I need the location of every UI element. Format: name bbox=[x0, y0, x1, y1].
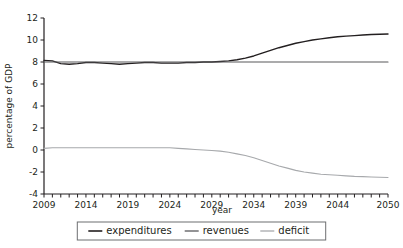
x-axis-tick-label: 2050 bbox=[377, 200, 400, 210]
x-axis-tick-label: 2024 bbox=[158, 200, 181, 210]
x-axis-tick-label: 2009 bbox=[33, 200, 56, 210]
y-axis-tick-label: 2 bbox=[32, 123, 38, 133]
y-axis-tick-label: 12 bbox=[27, 13, 38, 23]
y-axis-tick-label: 8 bbox=[32, 57, 38, 67]
chart-legend: expendituresrevenuesdeficit bbox=[77, 222, 325, 240]
line-chart: -4-2024681012 20092014201920242029203420… bbox=[0, 0, 403, 248]
legend-label-revenues: revenues bbox=[203, 225, 249, 236]
y-axis-tick-label: -2 bbox=[29, 167, 38, 177]
legend-label-expenditures: expenditures bbox=[106, 225, 171, 236]
y-axis-tick-label: 0 bbox=[32, 145, 38, 155]
y-axis-tick-label: 6 bbox=[32, 79, 38, 89]
y-axis-tick-label: -4 bbox=[29, 189, 38, 199]
y-axis-title: percentage of GDP bbox=[4, 63, 14, 149]
legend-label-deficit: deficit bbox=[278, 225, 309, 236]
x-axis-tick-label: 2034 bbox=[242, 200, 265, 210]
x-axis-title: year bbox=[212, 205, 232, 215]
x-axis-tick-label: 2044 bbox=[326, 200, 349, 210]
y-axis-tick-label: 4 bbox=[32, 101, 38, 111]
chart-background bbox=[0, 0, 403, 248]
x-axis-tick-label: 2014 bbox=[74, 200, 97, 210]
x-axis-tick-label: 2039 bbox=[284, 200, 307, 210]
x-axis-tick-label: 2019 bbox=[116, 200, 139, 210]
y-axis-tick-label: 10 bbox=[27, 35, 39, 45]
chart-container: -4-2024681012 20092014201920242029203420… bbox=[0, 0, 403, 248]
